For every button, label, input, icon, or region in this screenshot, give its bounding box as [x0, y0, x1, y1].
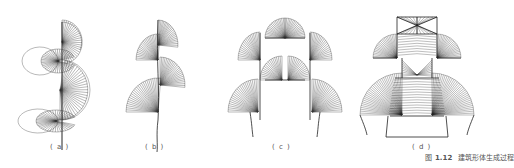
- caption-text: 建筑形体生成过程: [458, 154, 514, 162]
- panel-b: ( b ): [100, 0, 230, 168]
- figure-caption: 图1.12建筑形体生成过程: [425, 152, 514, 162]
- panel-label-a: ( a ): [50, 143, 69, 151]
- fan-drawing-b: [100, 0, 230, 168]
- panel-label-d: ( d ): [412, 143, 431, 151]
- caption-number: 1.12: [435, 154, 452, 162]
- panel-c: ( c ): [220, 0, 350, 168]
- panel-label-c: ( c ): [272, 143, 291, 151]
- panel-label-b: ( b ): [145, 143, 164, 151]
- panel-d: ( d ): [340, 0, 498, 168]
- caption-prefix: 图: [425, 154, 432, 162]
